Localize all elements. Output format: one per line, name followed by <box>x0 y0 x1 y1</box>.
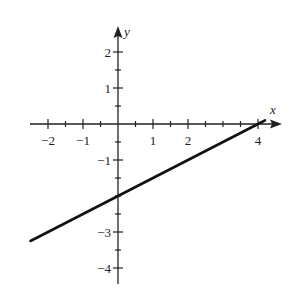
y-ticks: 21−1−3−4 <box>97 45 123 276</box>
chart: −2−1124 21−1−3−4 x y <box>0 0 300 295</box>
x-tick-label: 4 <box>255 133 262 148</box>
y-axis-label: y <box>122 24 130 39</box>
x-tick-label: −2 <box>41 133 55 148</box>
line-series <box>31 120 266 241</box>
y-tick-label: −4 <box>97 261 111 276</box>
x-tick-label: 1 <box>150 133 157 148</box>
y-tick-label: 1 <box>105 81 112 96</box>
y-tick-label: 2 <box>105 45 112 60</box>
x-tick-label: 2 <box>185 133 192 148</box>
x-axis-label: x <box>269 102 276 117</box>
y-tick-label: −3 <box>97 225 111 240</box>
y-tick-label: −1 <box>97 153 111 168</box>
x-tick-label: −1 <box>76 133 90 148</box>
data-series <box>31 120 266 241</box>
